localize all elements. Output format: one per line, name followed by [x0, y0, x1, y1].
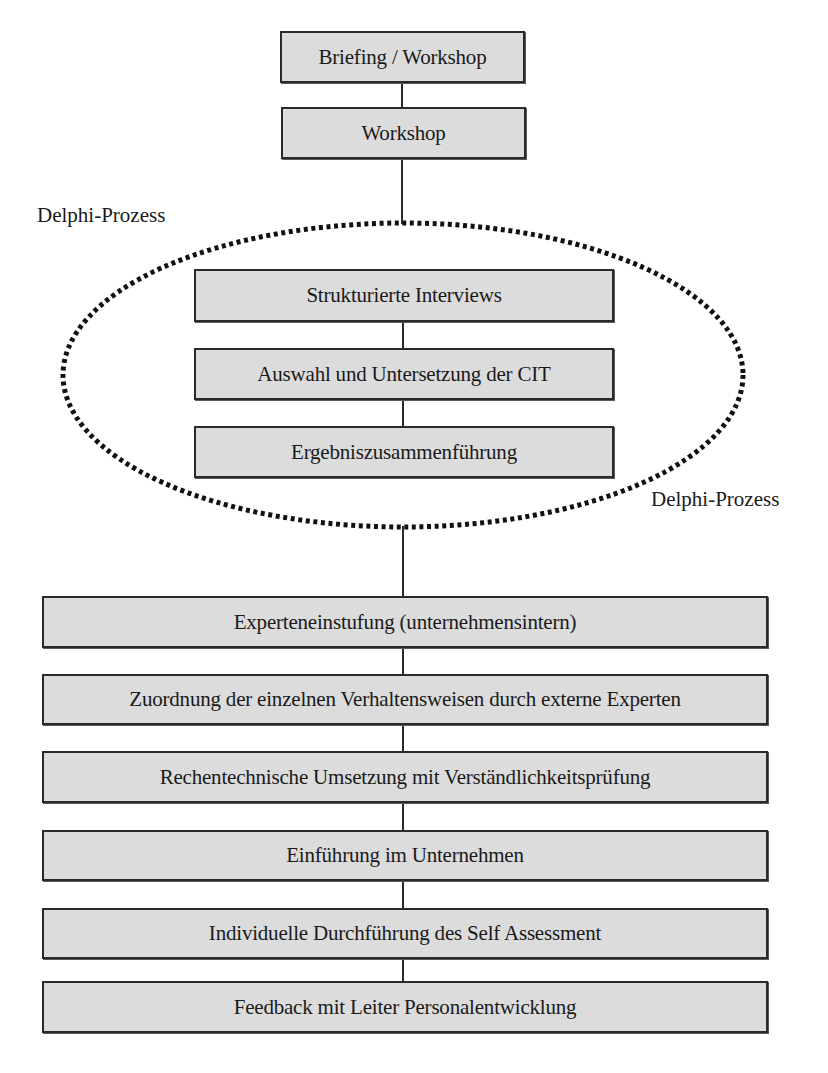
- delphi-process-label-top: Delphi-Prozess: [37, 205, 165, 226]
- step-label: Rechentechnische Umsetzung mit Verständl…: [160, 767, 651, 788]
- flowchart-diagram: Briefing / Workshop Workshop Delphi-Proz…: [0, 0, 828, 1073]
- step-label: Zuordnung der einzelnen Verhaltensweisen…: [129, 689, 680, 710]
- step-expert-rating: Experteneinstufung (unternehmensintern): [42, 596, 768, 648]
- step-feedback: Feedback mit Leiter Personalentwicklung: [42, 981, 768, 1033]
- connector-line: [402, 724, 404, 752]
- delphi-process-label-bottom: Delphi-Prozess: [651, 489, 779, 510]
- step-label: Einführung im Unternehmen: [286, 845, 524, 866]
- connector-line: [402, 399, 404, 427]
- connector-line: [402, 958, 404, 982]
- connector-line: [401, 82, 403, 108]
- step-technical-implementation: Rechentechnische Umsetzung mit Verständl…: [42, 751, 768, 803]
- step-cit-selection: Auswahl und Untersetzung der CIT: [194, 348, 614, 400]
- step-structured-interviews: Strukturierte Interviews: [194, 269, 614, 322]
- step-label: Feedback mit Leiter Personalentwicklung: [234, 997, 577, 1018]
- connector-line: [402, 802, 404, 831]
- step-label: Individuelle Durchführung des Self Asses…: [209, 923, 601, 944]
- step-label: Strukturierte Interviews: [306, 285, 501, 306]
- connector-line: [402, 880, 404, 909]
- connector-line: [402, 526, 404, 597]
- step-label: Ergebniszusammenführung: [291, 442, 517, 463]
- connector-line: [401, 158, 403, 224]
- step-label: Experteneinstufung (unternehmensintern): [234, 612, 577, 633]
- step-company-introduction: Einführung im Unternehmen: [42, 830, 768, 881]
- step-label: Auswahl und Untersetzung der CIT: [257, 364, 550, 385]
- connector-line: [402, 321, 404, 349]
- step-label: Workshop: [361, 123, 445, 144]
- step-label: Briefing / Workshop: [319, 47, 487, 68]
- step-workshop: Workshop: [281, 107, 526, 159]
- step-result-merge: Ergebniszusammenführung: [194, 426, 614, 478]
- step-self-assessment: Individuelle Durchführung des Self Asses…: [42, 908, 768, 959]
- step-behavior-assignment: Zuordnung der einzelnen Verhaltensweisen…: [42, 674, 768, 725]
- connector-line: [402, 647, 404, 675]
- step-briefing-workshop: Briefing / Workshop: [280, 31, 525, 83]
